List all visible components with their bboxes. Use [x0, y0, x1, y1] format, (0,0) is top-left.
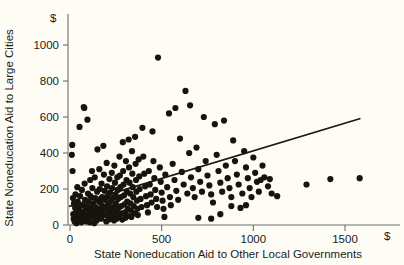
data-point — [166, 110, 172, 116]
data-point — [228, 194, 234, 200]
data-point — [212, 121, 218, 127]
y-tick-label: 200 — [40, 183, 59, 195]
data-point — [150, 158, 156, 164]
data-point — [138, 204, 144, 210]
data-point — [197, 179, 203, 185]
x-axis-currency-symbol: $ — [384, 230, 391, 242]
data-point — [89, 168, 95, 174]
data-point — [152, 187, 158, 193]
data-point — [137, 186, 143, 192]
data-point — [258, 177, 264, 183]
data-point — [79, 187, 85, 193]
data-point — [154, 204, 160, 210]
data-point — [173, 188, 179, 194]
data-point — [221, 118, 227, 124]
plot-canvas: 02004006008001000 050010001500 $ $ State… — [0, 0, 404, 265]
data-point — [214, 152, 220, 158]
data-point — [181, 181, 187, 187]
data-point — [182, 88, 188, 94]
data-point — [69, 142, 75, 148]
data-point — [237, 205, 243, 211]
data-point — [239, 190, 245, 196]
regression-trendline — [70, 119, 360, 206]
data-point — [120, 139, 126, 145]
x-tick-label: 500 — [152, 233, 171, 245]
data-point — [109, 185, 115, 191]
data-point — [236, 181, 242, 187]
data-point — [140, 154, 146, 160]
data-point — [190, 185, 196, 191]
data-point — [77, 193, 83, 199]
data-point — [217, 211, 223, 217]
data-point — [210, 199, 216, 205]
y-tick-label: 600 — [40, 111, 59, 123]
data-point — [327, 176, 333, 182]
data-points-group — [69, 55, 363, 227]
data-point — [259, 163, 265, 169]
data-point — [245, 175, 251, 181]
data-point — [186, 150, 192, 156]
x-axis-ticks: 050010001500 — [67, 225, 358, 245]
data-point — [116, 154, 122, 160]
data-point — [274, 193, 280, 199]
data-point — [204, 172, 210, 178]
data-point — [111, 163, 117, 169]
data-point — [175, 197, 181, 203]
data-point — [171, 177, 177, 183]
data-point — [203, 158, 209, 164]
data-point — [226, 185, 232, 191]
data-point — [129, 148, 135, 154]
data-point — [187, 102, 193, 108]
data-point — [96, 166, 102, 172]
data-point — [139, 125, 145, 131]
data-point — [126, 136, 132, 142]
data-point — [161, 214, 167, 220]
data-point — [269, 190, 275, 196]
data-point — [177, 136, 183, 142]
data-point — [94, 146, 100, 152]
data-point — [247, 185, 253, 191]
data-point — [195, 215, 201, 221]
data-point — [123, 158, 129, 164]
data-point — [98, 181, 104, 187]
data-point — [101, 172, 107, 178]
data-point — [82, 181, 88, 187]
data-point — [265, 183, 271, 189]
data-point — [357, 175, 363, 181]
x-tick-label: 1500 — [332, 233, 358, 245]
data-point — [168, 202, 174, 208]
data-point — [217, 180, 223, 186]
data-point — [109, 170, 115, 176]
data-point — [234, 172, 240, 178]
data-point — [243, 164, 249, 170]
data-point — [167, 194, 173, 200]
data-point — [208, 191, 214, 197]
data-point — [232, 158, 238, 164]
data-point — [303, 181, 309, 187]
data-point — [92, 174, 98, 180]
data-point — [159, 190, 165, 196]
data-point — [104, 160, 110, 166]
data-point — [206, 182, 212, 188]
data-point — [148, 191, 154, 197]
y-tick-label: 800 — [40, 75, 59, 87]
data-point — [69, 168, 75, 174]
data-point — [153, 196, 159, 202]
data-point — [146, 168, 152, 174]
y-axis-title: State Noneducation Aid to Large Cities — [3, 29, 15, 227]
data-point — [172, 105, 178, 111]
y-tick-label: 0 — [53, 219, 59, 231]
data-point — [106, 176, 112, 182]
data-point — [201, 114, 207, 120]
data-point — [225, 175, 231, 181]
data-point — [184, 190, 190, 196]
data-point — [135, 212, 141, 218]
x-tick-label: 1000 — [241, 233, 267, 245]
y-tick-label: 400 — [40, 147, 59, 159]
data-point — [252, 170, 258, 176]
y-axis-currency-symbol: $ — [50, 12, 57, 24]
x-axis-title: State Noneducation Aid to Other Local Go… — [94, 248, 362, 260]
data-point — [84, 117, 90, 123]
data-point — [100, 143, 106, 149]
data-point — [170, 161, 176, 167]
